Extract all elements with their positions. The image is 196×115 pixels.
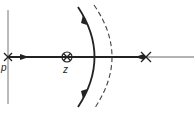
arrow-right-icon xyxy=(20,54,29,60)
zero-label: z xyxy=(63,65,68,75)
root-locus-diagram xyxy=(0,0,196,115)
arrow-left-icon xyxy=(135,54,144,60)
pole-label: p xyxy=(1,63,7,73)
